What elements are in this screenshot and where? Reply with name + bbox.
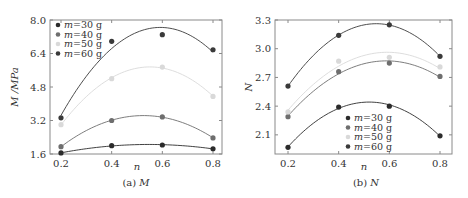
data-point — [387, 55, 392, 60]
y-tick-label: 1.6 — [30, 149, 46, 160]
chart-a-m: 1.63.24.86.48.00.20.40.60.8nM /MPa(a) Mm… — [9, 15, 222, 189]
data-point — [285, 114, 290, 119]
legend-marker — [346, 116, 351, 121]
legend-label: m=60 g — [354, 141, 392, 152]
series-m40g — [58, 114, 215, 149]
legend-marker — [346, 125, 351, 130]
data-point — [336, 105, 341, 110]
y-tick-label: 2.4 — [255, 101, 271, 112]
legend-marker — [56, 42, 61, 47]
y-tick-label: 2.1 — [255, 129, 271, 140]
y-axis-title: M /MPa — [9, 67, 20, 107]
legend-marker — [56, 23, 61, 28]
data-point — [210, 146, 215, 151]
figure: 1.63.24.86.48.00.20.40.60.8nM /MPa(a) Mm… — [0, 0, 468, 198]
series-m40g — [285, 60, 442, 119]
data-point — [58, 144, 63, 149]
chart-b-n: 2.12.42.73.03.30.20.40.60.8nN(b) Nm=30 g… — [243, 15, 452, 189]
data-point — [387, 22, 392, 27]
fit-curve — [61, 67, 213, 125]
data-point — [160, 32, 165, 37]
x-axis-title: n — [361, 161, 367, 172]
x-tick-label: 0.4 — [104, 158, 120, 169]
fit-curve — [288, 61, 440, 116]
data-point — [210, 47, 215, 52]
data-point — [109, 76, 114, 81]
y-tick-label: 6.4 — [30, 48, 46, 59]
x-tick-label: 0.2 — [53, 158, 69, 169]
data-point — [160, 65, 165, 70]
x-tick-label: 0.2 — [280, 158, 296, 169]
data-point — [437, 74, 442, 79]
data-point — [109, 143, 114, 148]
series-m50g — [285, 52, 442, 114]
data-point — [58, 150, 63, 155]
data-point — [437, 133, 442, 138]
legend: m=30 gm=40 gm=50 gm=60 g — [346, 112, 392, 152]
legend-label: m=60 g — [64, 48, 102, 59]
data-point — [58, 115, 63, 120]
legend-marker — [56, 32, 61, 37]
x-tick-label: 0.6 — [381, 158, 397, 169]
data-point — [109, 39, 114, 44]
data-point — [336, 33, 341, 38]
data-point — [285, 145, 290, 150]
data-point — [387, 60, 392, 65]
data-point — [160, 142, 165, 147]
fit-curve — [61, 116, 213, 147]
fit-curve — [288, 24, 440, 86]
legend-marker — [346, 135, 351, 140]
legend: m=30 gm=40 gm=50 gm=60 g — [56, 19, 102, 59]
y-axis-title: N — [243, 81, 254, 92]
y-tick-label: 4.8 — [30, 82, 46, 93]
x-tick-label: 0.8 — [205, 158, 221, 169]
y-tick-label: 3.3 — [255, 15, 271, 26]
data-point — [285, 109, 290, 114]
legend-marker — [346, 144, 351, 149]
x-axis-title: n — [134, 161, 140, 172]
y-tick-label: 8.0 — [30, 15, 46, 26]
data-point — [437, 64, 442, 69]
chart-caption: (a) M — [122, 177, 150, 188]
chart-caption: (b) N — [353, 177, 380, 188]
legend-marker — [56, 51, 61, 56]
y-tick-label: 2.7 — [255, 72, 271, 83]
x-tick-label: 0.8 — [432, 158, 448, 169]
x-tick-label: 0.4 — [331, 158, 347, 169]
data-point — [336, 69, 341, 74]
fit-curve — [61, 144, 213, 152]
data-point — [210, 94, 215, 99]
data-point — [109, 118, 114, 123]
fit-curve — [288, 52, 440, 110]
data-point — [387, 104, 392, 109]
data-point — [160, 114, 165, 119]
data-point — [437, 54, 442, 59]
x-tick-label: 0.6 — [154, 158, 170, 169]
data-point — [58, 122, 63, 127]
y-tick-label: 3.0 — [255, 43, 271, 54]
data-point — [336, 59, 341, 64]
series-m50g — [58, 65, 215, 128]
data-point — [210, 135, 215, 140]
y-tick-label: 3.2 — [30, 115, 46, 126]
data-point — [285, 83, 290, 88]
